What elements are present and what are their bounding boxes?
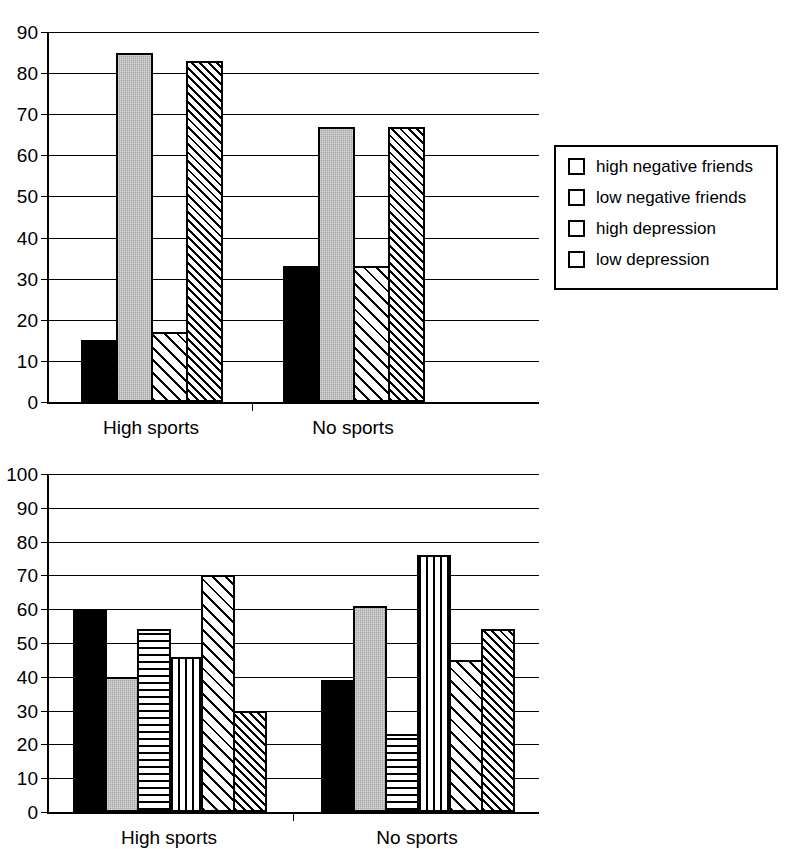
y-tick-mark: [41, 402, 47, 403]
plot-area-chart-1: 0102030405060708090: [47, 32, 539, 404]
bar-chart-self-esteem-belonging-positive-friends: 0102030405060708090100 High sportsNo spo…: [0, 450, 800, 849]
y-tick-label: 20: [17, 735, 38, 754]
plot-canvas-chart-1: 0102030405060708090: [47, 32, 539, 404]
legend-item-label: low depression: [596, 251, 709, 268]
legend-swatch-diagonal-sparse-icon: [568, 220, 585, 237]
y-tick-label: 10: [17, 351, 38, 370]
bar: [81, 340, 118, 402]
bar: [201, 575, 235, 812]
bar: [105, 677, 139, 812]
y-tick-label: 50: [17, 187, 38, 206]
legend-swatch-gray-dotted-icon: [568, 189, 585, 206]
y-tick-label: 60: [17, 600, 38, 619]
bars-layer-chart-1: [47, 32, 539, 402]
legend-chart-1: high negative friends low negative frien…: [554, 145, 778, 290]
y-tick-label: 10: [17, 769, 38, 788]
legend-swatch-solid-black-icon: [568, 158, 585, 175]
legend-item: low negative friends: [568, 189, 764, 206]
bar: [481, 629, 515, 812]
legend-item: high depression: [568, 220, 764, 237]
legend-item: low depression: [568, 251, 764, 268]
bar: [321, 680, 355, 812]
bar: [233, 711, 267, 812]
plot-area-chart-2: 0102030405060708090100: [47, 474, 539, 814]
x-axis-group-separator-tick: [293, 814, 294, 821]
y-tick-label: 0: [27, 393, 38, 412]
y-tick-label: 30: [17, 701, 38, 720]
legend-item-label: low negative friends: [596, 189, 746, 206]
y-tick-label: 80: [17, 64, 38, 83]
bar: [353, 266, 390, 402]
x-axis-group-separator-tick: [252, 404, 253, 411]
x-axis-category-label: No sports: [376, 828, 457, 847]
bar: [388, 127, 425, 402]
y-tick-label: 30: [17, 269, 38, 288]
x-axis-category-label: High sports: [121, 828, 217, 847]
bar: [151, 332, 188, 402]
y-tick-label: 50: [17, 634, 38, 653]
y-tick-label: 60: [17, 146, 38, 165]
bar: [186, 61, 223, 402]
bar: [137, 629, 171, 812]
bar: [169, 657, 203, 812]
y-tick-label: 40: [17, 667, 38, 686]
bar: [449, 660, 483, 812]
bar: [73, 609, 107, 812]
legend-item-label: high negative friends: [596, 158, 753, 175]
y-tick-label: 90: [17, 498, 38, 517]
legend-item-label: high depression: [596, 220, 716, 237]
y-tick-mark: [41, 812, 47, 813]
y-tick-label: 70: [17, 105, 38, 124]
plot-canvas-chart-2: 0102030405060708090100: [47, 474, 539, 814]
bar: [417, 555, 451, 812]
y-tick-label: 90: [17, 23, 38, 42]
bar-chart-negative-friends-depression: 0102030405060708090 High sportsNo sports…: [0, 0, 800, 450]
bar: [283, 266, 320, 402]
y-tick-label: 80: [17, 532, 38, 551]
bar: [385, 734, 419, 812]
bar: [116, 53, 153, 402]
x-axis-line-chart-1: [47, 402, 539, 404]
legend-swatch-diagonal-dense-icon: [568, 251, 585, 268]
y-tick-label: 100: [6, 465, 38, 484]
bars-layer-chart-2: [47, 474, 539, 812]
bar: [318, 127, 355, 402]
y-tick-label: 0: [27, 803, 38, 822]
x-axis-category-label: No sports: [312, 418, 393, 437]
y-tick-label: 40: [17, 228, 38, 247]
legend-item: high negative friends: [568, 158, 764, 175]
bar: [353, 606, 387, 812]
x-axis-category-label: High sports: [103, 418, 199, 437]
y-tick-label: 70: [17, 566, 38, 585]
y-tick-label: 20: [17, 310, 38, 329]
